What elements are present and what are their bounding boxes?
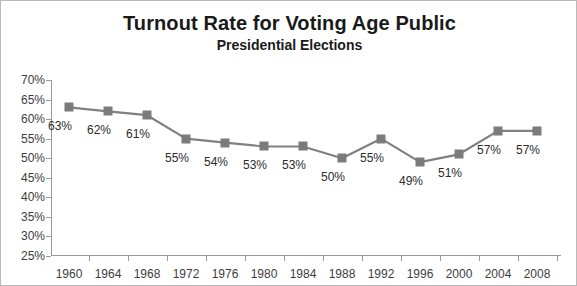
data-point-marker: [182, 134, 191, 143]
page-title: Turnout Rate for Voting Age Public: [1, 11, 577, 35]
y-axis-label: 55%: [21, 132, 45, 146]
data-point-label: 63%: [48, 119, 72, 133]
y-axis-label: 25%: [21, 249, 45, 263]
x-axis-tick: [479, 256, 480, 261]
data-point-label: 55%: [165, 151, 189, 165]
data-point-marker: [338, 154, 347, 163]
x-axis-tick: [518, 256, 519, 261]
x-axis-tick: [89, 256, 90, 261]
y-axis-label: 30%: [21, 229, 45, 243]
y-axis-label: 40%: [21, 190, 45, 204]
x-axis-label: 1960: [56, 267, 83, 281]
x-axis-tick: [440, 256, 441, 261]
x-axis-label: 1988: [329, 267, 356, 281]
x-axis-tick: [245, 256, 246, 261]
x-axis-label: 1976: [212, 267, 239, 281]
y-axis-label: 70%: [21, 73, 45, 87]
data-point-label: 62%: [87, 123, 111, 137]
data-point-marker: [221, 138, 230, 147]
y-axis-label: 65%: [21, 93, 45, 107]
data-point-label: 49%: [399, 174, 423, 188]
x-axis-label: 1980: [251, 267, 278, 281]
x-axis-label: 2004: [485, 267, 512, 281]
chart-subtitle: Presidential Elections: [1, 36, 577, 55]
chart-container: Turnout Rate for Voting Age Public Presi…: [0, 0, 577, 286]
data-point-label: 61%: [126, 127, 150, 141]
x-axis-tick: [362, 256, 363, 261]
x-axis-tick: [557, 256, 558, 261]
data-point-marker: [260, 142, 269, 151]
x-axis-label: 1964: [95, 267, 122, 281]
x-axis-label: 1992: [368, 267, 395, 281]
data-point-marker: [533, 126, 542, 135]
data-point-label: 53%: [243, 158, 267, 172]
data-point-marker: [143, 111, 152, 120]
data-point-label: 50%: [321, 170, 345, 184]
y-axis-tick: [46, 256, 51, 257]
y-axis-label: 35%: [21, 210, 45, 224]
x-axis-tick: [323, 256, 324, 261]
x-axis-label: 1968: [134, 267, 161, 281]
x-axis-tick: [284, 256, 285, 261]
data-point-marker: [65, 103, 74, 112]
data-point-label: 55%: [360, 151, 384, 165]
y-axis-label: 60%: [21, 112, 45, 126]
data-point-label: 57%: [516, 143, 540, 157]
y-axis-label: 50%: [21, 151, 45, 165]
x-axis-label: 2008: [524, 267, 551, 281]
data-point-marker: [299, 142, 308, 151]
x-axis-label: 1996: [407, 267, 434, 281]
data-point-marker: [377, 134, 386, 143]
data-point-marker: [104, 107, 113, 116]
data-point-marker: [455, 150, 464, 159]
x-axis-label: 2000: [446, 267, 473, 281]
x-axis-tick: [167, 256, 168, 261]
data-point-label: 54%: [204, 155, 228, 169]
x-axis-label: 1972: [173, 267, 200, 281]
chart-title-block: Turnout Rate for Voting Age Public Presi…: [1, 11, 577, 55]
plot-area: 70%65%60%55%50%45%40%35%30%25% 196019641…: [51, 80, 561, 256]
y-axis-label: 45%: [21, 171, 45, 185]
data-point-label: 53%: [282, 158, 306, 172]
x-axis-tick: [206, 256, 207, 261]
data-point-label: 57%: [477, 143, 501, 157]
data-point-marker: [416, 158, 425, 167]
x-axis-tick: [401, 256, 402, 261]
x-axis-label: 1984: [290, 267, 317, 281]
x-axis-tick: [128, 256, 129, 261]
data-point-label: 51%: [438, 166, 462, 180]
data-point-marker: [494, 126, 503, 135]
